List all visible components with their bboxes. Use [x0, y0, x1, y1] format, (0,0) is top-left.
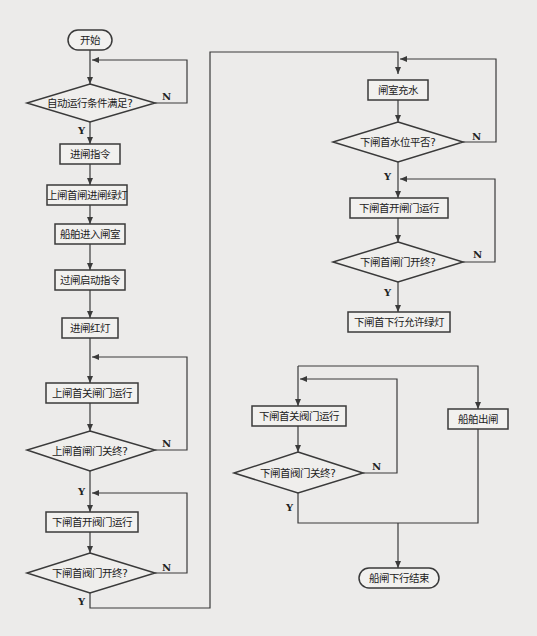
chamber-fill-label: 闸室充水: [378, 85, 418, 96]
no-label: N: [473, 250, 482, 260]
lower-open-gate-run-label: 下闸首开闸门运行: [359, 203, 439, 214]
yes-label: Y: [384, 288, 391, 298]
no-label: N: [162, 563, 171, 573]
pass-cmd-label: 过闸启动指令: [60, 275, 120, 286]
cond-lower-valve-closed-label: 下闸首阀门关终?: [260, 468, 336, 479]
cond-upper-closed-label: 上闸首闸门关终?: [52, 446, 128, 457]
yes-label: Y: [78, 597, 85, 607]
enter-cmd-label: 进闸指令: [70, 149, 110, 160]
cond-lower-gate-open-label: 下闸首闸门开终?: [360, 257, 436, 268]
yes-label: Y: [384, 172, 391, 182]
cond-lower-valve-open-label: 下闸首阀门开终?: [52, 568, 128, 579]
yes-label: Y: [78, 487, 85, 497]
yes-label: Y: [286, 503, 293, 513]
flowchart-lines: [0, 0, 537, 636]
lower-close-valve-run-label: 下闸首关阀门运行: [259, 411, 339, 422]
end-label: 船闸下行结束: [369, 573, 429, 584]
no-label: N: [162, 439, 171, 449]
ship-exit-label: 船舶出闸: [458, 414, 498, 425]
no-label: N: [472, 132, 481, 142]
no-label: N: [372, 462, 381, 472]
lower-down-green-label: 下闸首下行允许绿灯: [354, 317, 444, 328]
upper-close-run-label: 上闸首关闸门运行: [52, 388, 132, 399]
cond-lower-level-label: 下闸首水位平否?: [360, 137, 436, 148]
lower-open-valve-run-label: 下闸首开阀门运行: [52, 517, 132, 528]
ship-enter-label: 船舶进入闸室: [60, 229, 120, 240]
upper-green-label: 上闸首闸进闸绿灯: [47, 190, 127, 201]
no-label: N: [162, 92, 171, 102]
start-label: 开始: [80, 35, 100, 46]
cond-auto-label: 自动运行条件满足?: [47, 98, 133, 109]
enter-red-label: 进闸红灯: [70, 323, 110, 334]
yes-label: Y: [78, 126, 85, 136]
flowchart-canvas: 开始 自动运行条件满足? 进闸指令 上闸首闸进闸绿灯 船舶进入闸室 过闸启动指令…: [0, 0, 537, 636]
